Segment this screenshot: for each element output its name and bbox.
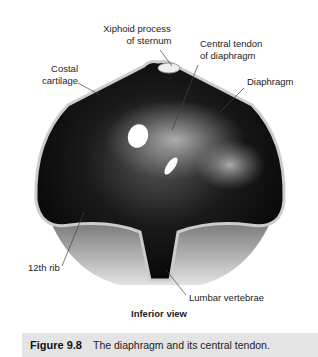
label-lumbar-vertebrae: Lumbar vertebrae — [189, 292, 264, 304]
label-xiphoid-line2: of sternum — [82, 35, 192, 47]
caption-text: The diaphragm and its central tendon. — [93, 339, 270, 351]
diaphragm-illustration — [0, 0, 318, 330]
label-costal-cartilage: Costal cartilage — [20, 63, 78, 87]
view-label: Inferior view — [0, 308, 318, 319]
label-diaphragm: Diaphragm — [247, 76, 293, 88]
label-central-tendon-line2: of diaphragm — [200, 50, 262, 62]
figure-caption: Figure 9.8 The diaphragm and its central… — [22, 333, 318, 357]
label-xiphoid-line1: Xiphoid process — [82, 23, 192, 35]
label-costal-line2: cartilage — [20, 75, 78, 87]
label-12th-rib: 12th rib — [28, 262, 60, 274]
label-costal-line1: Costal — [20, 63, 78, 75]
caption-number: Figure 9.8 — [30, 339, 82, 351]
label-xiphoid: Xiphoid process of sternum — [82, 23, 192, 47]
label-central-tendon-line1: Central tendon — [200, 38, 262, 50]
label-central-tendon: Central tendon of diaphragm — [200, 38, 262, 62]
